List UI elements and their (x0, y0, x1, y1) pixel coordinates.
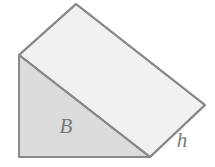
height-label-h: h (177, 128, 188, 152)
geometry-figure-container: B h (0, 0, 215, 167)
base-label-B: B (60, 114, 73, 138)
triangular-prism-diagram: B h (0, 0, 215, 167)
